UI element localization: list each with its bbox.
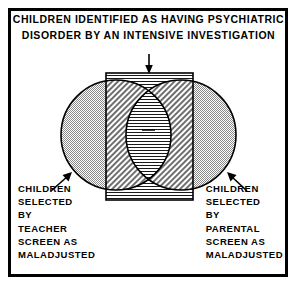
label-left-line-5: SCREEN AS	[18, 235, 95, 248]
label-right-line-2: SELECTED	[206, 195, 283, 208]
label-right-line-5: SCREEN AS	[206, 235, 283, 248]
label-left-line-3: BY	[18, 208, 95, 221]
label-left-line-2: SELECTED	[18, 195, 95, 208]
label-left-line-6: MALADJUSTED	[18, 248, 95, 261]
label-left-line-1: CHILDREN	[18, 182, 95, 195]
label-teacher-screen: CHILDREN SELECTED BY TEACHER SCREEN AS M…	[18, 182, 95, 261]
label-parental-screen: CHILDREN SELECTED BY PARENTAL SCREEN AS …	[206, 182, 283, 261]
down-arrow-icon	[145, 54, 153, 74]
figure-container: CHILDREN IDENTIFIED AS HAVING PSYCHIATRI…	[0, 0, 297, 285]
label-right-line-3: BY	[206, 208, 283, 221]
label-right-line-6: MALADJUSTED	[206, 248, 283, 261]
label-left-line-4: TEACHER	[18, 222, 95, 235]
label-right-line-4: PARENTAL	[206, 222, 283, 235]
label-right-line-1: CHILDREN	[206, 182, 283, 195]
